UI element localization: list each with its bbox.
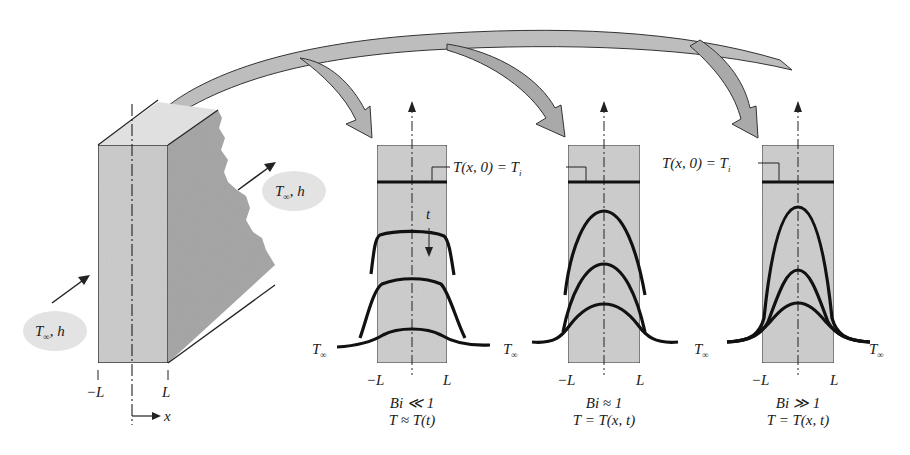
plane-wall: −L L x: [86, 100, 275, 425]
biot-number-diagram: −L L x T∞, h T∞, h T(x, 0) = Ti t T∞: [0, 0, 910, 455]
biot-label: Bi ≪ 1: [390, 395, 434, 411]
svg-text:−L: −L: [751, 372, 769, 388]
svg-text:L: L: [829, 372, 838, 388]
svg-text:L: L: [442, 372, 451, 388]
svg-text:T∞: T∞: [312, 341, 327, 360]
panel-bi-large: T(x, 0) = Ti T∞ T∞ −L L Bi ≫ 1 T = T(x, …: [662, 101, 884, 429]
panel-bi-small: T(x, 0) = Ti t T∞ −L L Bi ≪ 1 T ≈ T(t): [312, 101, 522, 429]
biot-label: Bi ≈ 1: [586, 395, 623, 411]
x-axis-label: x: [163, 408, 171, 424]
svg-text:T∞: T∞: [869, 341, 884, 360]
curved-arrow-to-panel-1: [300, 58, 372, 138]
svg-text:−L: −L: [366, 372, 384, 388]
panel-bi-one: T∞ −L L Bi ≈ 1 T = T(x, t): [503, 101, 678, 429]
ambient-left: T∞, h: [23, 275, 90, 351]
relation-label: T ≈ T(t): [389, 412, 435, 429]
wall-right-bound: L: [161, 384, 170, 400]
curved-arrows: [132, 30, 792, 146]
svg-text:T(x, 0) = Ti: T(x, 0) = Ti: [453, 159, 522, 178]
relation-label: T = T(x, t): [767, 412, 829, 429]
wall-side-face: [168, 110, 275, 363]
temperature-axis-arrowhead-icon: [794, 101, 802, 112]
relation-label: T = T(x, t): [573, 412, 635, 429]
svg-text:T∞: T∞: [503, 341, 518, 360]
wall-left-bound: −L: [86, 384, 104, 400]
temperature-axis-arrowhead-icon: [408, 101, 416, 112]
ambient-right: T∞, h: [238, 162, 326, 211]
wall-front-face: [98, 145, 168, 363]
curved-arrow-to-panel-2: [447, 44, 565, 137]
svg-text:−L: −L: [557, 372, 575, 388]
svg-text:T(x, 0) = Ti: T(x, 0) = Ti: [662, 155, 731, 174]
svg-text:T∞: T∞: [694, 341, 709, 360]
temperature-axis-arrowhead-icon: [600, 101, 608, 112]
svg-text:L: L: [635, 372, 644, 388]
biot-label: Bi ≫ 1: [776, 395, 820, 411]
x-axis-arrowhead-icon: [152, 412, 161, 420]
